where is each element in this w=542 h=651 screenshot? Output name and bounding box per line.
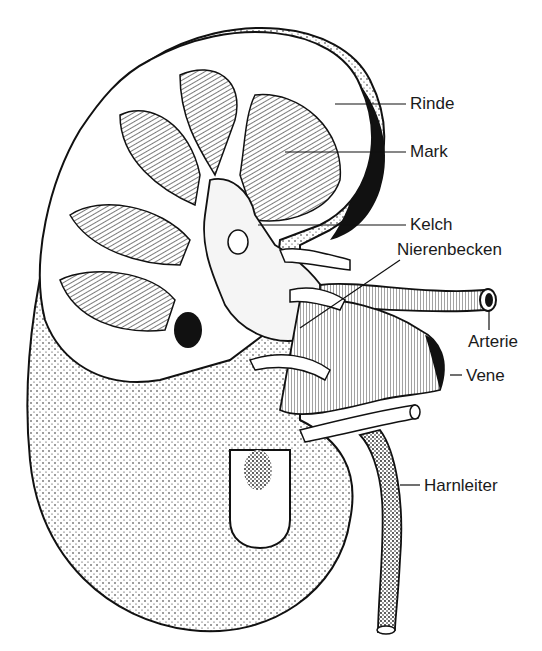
label-vene: Vene — [466, 367, 505, 384]
vein — [280, 299, 444, 414]
label-kelch: Kelch — [410, 216, 453, 233]
kidney-illustration — [0, 0, 542, 651]
label-arterie: Arterie — [468, 333, 518, 350]
label-mark: Mark — [410, 143, 448, 160]
ureter — [360, 430, 401, 632]
label-nierenbecken: Nierenbecken — [397, 241, 502, 258]
label-harnleiter: Harnleiter — [424, 477, 498, 494]
label-rinde: Rinde — [410, 95, 454, 112]
